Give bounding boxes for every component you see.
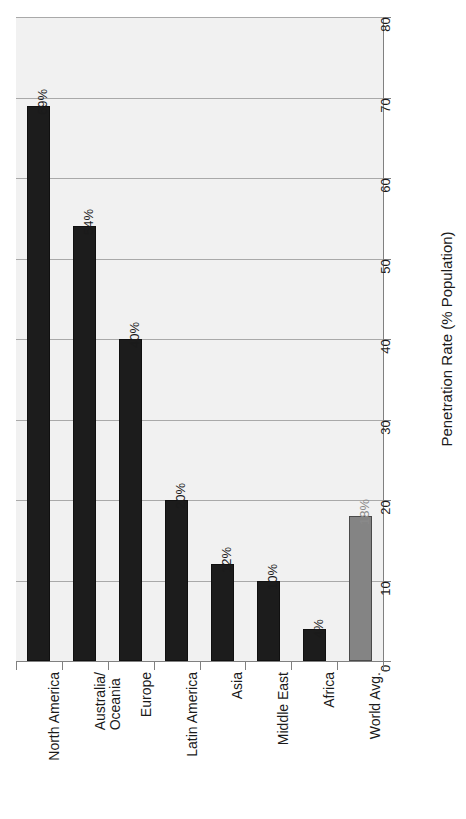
bar[interactable] <box>27 106 50 661</box>
bar-value-label: 10% <box>265 563 280 589</box>
gridline <box>16 581 383 582</box>
category-axis-label: Asia <box>230 672 245 699</box>
value-axis-tick-label: 40 <box>378 339 393 353</box>
value-axis-tick-label: 70 <box>378 98 393 112</box>
bar[interactable] <box>119 339 142 661</box>
category-axis-tick <box>245 662 246 670</box>
bar[interactable] <box>73 226 96 661</box>
category-axis-label: Africa <box>322 672 337 708</box>
bar-value-label: 18% <box>357 499 372 525</box>
category-axis-label: North America <box>47 672 62 761</box>
category-axis-tick <box>154 662 155 670</box>
bar-value-label: 4% <box>311 619 326 638</box>
chart-figure: 01020304050607080 69%54%40%20%12%10%4%18… <box>0 0 466 819</box>
bar-value-label: 69% <box>35 89 50 115</box>
bar[interactable] <box>211 564 234 661</box>
value-axis-tick-label: 10 <box>378 581 393 595</box>
gridline <box>16 98 383 99</box>
value-axis-tick <box>384 661 391 662</box>
category-axis-tick <box>62 662 63 670</box>
bar[interactable] <box>257 581 280 662</box>
category-axis-label: Middle East <box>276 672 291 745</box>
bar-value-label: 54% <box>81 209 96 235</box>
gridline <box>16 339 383 340</box>
gridline <box>16 178 383 179</box>
category-axis-label: Latin America <box>185 672 200 757</box>
value-axis-tick-label: 60 <box>378 178 393 192</box>
gridline <box>16 259 383 260</box>
category-axis-tick <box>108 662 109 670</box>
bar[interactable] <box>165 500 188 661</box>
bar-value-label: 12% <box>219 547 234 573</box>
bar-value-label: 20% <box>173 483 188 509</box>
category-axis-label: Europe <box>139 672 154 717</box>
category-axis-tick <box>200 662 201 670</box>
category-axis-tick <box>383 662 384 670</box>
category-axis-label: Australia/ Oceania <box>93 672 122 730</box>
category-axis-tick <box>337 662 338 670</box>
bar[interactable] <box>349 516 372 661</box>
gridline <box>16 500 383 501</box>
value-axis-tick-label: 50 <box>378 259 393 273</box>
category-axis-tick <box>16 662 17 670</box>
plot-area <box>16 17 383 661</box>
value-axis-tick-label: 20 <box>378 500 393 514</box>
category-axis-label: World Avg. <box>368 672 383 739</box>
gridline <box>16 17 383 18</box>
gridline <box>16 420 383 421</box>
value-axis-title: Penetration Rate (% Population) <box>438 231 455 446</box>
bar-value-label: 40% <box>127 322 142 348</box>
value-axis-tick-label: 30 <box>378 420 393 434</box>
value-axis-tick-label: 80 <box>378 17 393 31</box>
category-axis-tick <box>291 662 292 670</box>
